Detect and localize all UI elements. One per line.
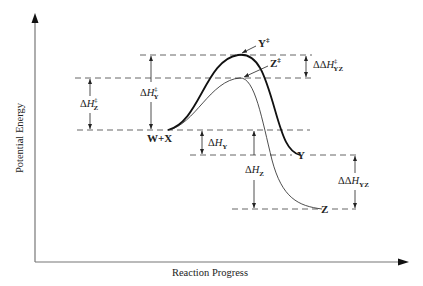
svg-text:Y‡: Y‡ <box>258 36 270 49</box>
reference-lines <box>75 55 356 209</box>
x-axis-arrow-icon <box>398 259 409 266</box>
pathway-y-curve <box>168 55 300 155</box>
y-axis-label: Potential Energy <box>14 102 25 173</box>
ddH-label: ΔΔHYZ <box>338 175 369 189</box>
product-y-label: Y <box>297 149 305 161</box>
dH-z-label: ΔHZ <box>245 164 264 178</box>
dH-ts-z-label: ΔH‡Z <box>80 96 99 112</box>
pathway-z-curve <box>168 78 322 209</box>
svg-text:Z‡: Z‡ <box>270 56 281 69</box>
ts-y-label: Y‡ <box>242 36 270 53</box>
x-axis <box>35 259 409 266</box>
x-axis-label: Reaction Progress <box>172 267 248 278</box>
y-axis-arrow-icon <box>32 13 39 23</box>
dH-y-label: ΔHY <box>208 137 227 151</box>
energy-diagram: Potential Energy Reaction Progress Y‡ Z‡… <box>0 0 423 286</box>
ddH-ts-label: ΔΔH‡YZ <box>313 57 343 73</box>
y-axis <box>32 13 39 262</box>
product-z-label: Z <box>321 203 328 215</box>
reactants-label: W+X <box>147 132 172 144</box>
dH-ts-y-label: ΔH‡Y <box>140 85 159 101</box>
